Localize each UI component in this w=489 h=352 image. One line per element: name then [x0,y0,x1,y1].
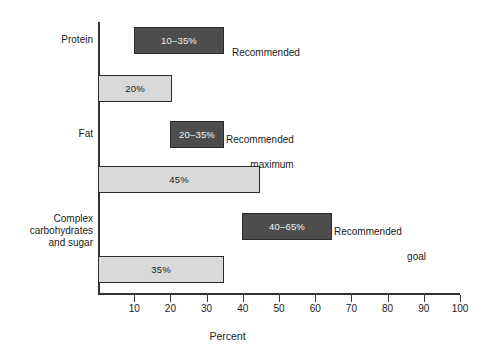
bar-fat-actual: 45% [98,166,260,193]
x-axis-tick-80 [388,295,389,302]
annotation-carbs-line1: Recommended [334,226,454,239]
x-axis-tick-label-20: 20 [155,303,185,315]
bar-carbs-range-value: 40–65% [269,221,305,232]
category-label-protein-text: Protein [61,34,93,45]
x-axis-tick-10 [134,295,135,302]
x-axis-tick-50 [279,295,280,302]
annotation-carbs-line2: goal [334,251,426,264]
x-axis-tick-60 [315,295,316,302]
bar-protein-actual: 20% [98,75,172,102]
x-axis-title-text: Percent [209,330,245,342]
x-axis-tick-label-90: 90 [409,303,439,315]
category-label-fat-text: Fat [79,128,93,139]
x-axis-tick-label-100: 100 [445,303,475,315]
category-label-carbohydrates: Complex carbohydrates and sugar [0,213,93,249]
category-label-carbs-line1: Complex [0,213,93,225]
x-axis-tick-label-70: 70 [336,303,366,315]
x-axis-tick-20 [170,295,171,302]
category-label-carbs-line2: carbohydrates [0,225,93,237]
x-axis-tick-label-30: 30 [192,303,222,315]
x-axis-tick-label-10: 10 [119,303,149,315]
x-axis-title: Percent [0,330,489,342]
x-axis-tick-label-80: 80 [373,303,403,315]
x-axis-tick-70 [351,295,352,302]
category-label-protein: Protein [0,34,93,46]
annotation-protein-recommended: Recommended [232,34,352,59]
bar-protein-actual-value: 20% [125,83,145,94]
bar-fat-actual-value: 45% [169,174,189,185]
category-label-carbs-line3: and sugar [0,237,93,249]
bar-carbohydrates-actual: 35% [98,256,224,283]
x-axis-tick-30 [207,295,208,302]
annotation-carbohydrates-recommended-goal: Recommended goal [334,213,454,276]
x-axis-tick-40 [243,295,244,302]
x-axis-tick-100 [460,295,461,302]
y-axis-line [98,22,100,294]
bar-carbs-actual-value: 35% [151,264,171,275]
bar-protein-range-value: 10–35% [161,35,197,46]
bar-protein-recommended-range: 10–35% [134,27,224,54]
x-axis-tick-label-40: 40 [228,303,258,315]
x-axis-tick-90 [424,295,425,302]
bar-chart: 102030405060708090100 Percent Protein Fa… [0,0,489,352]
bar-carbohydrates-recommended-range: 40–65% [242,213,332,240]
annotation-protein-text: Recommended [232,47,300,58]
x-axis-tick-label-50: 50 [264,303,294,315]
annotation-fat-line1: Recommended [226,134,356,147]
x-axis-tick-label-60: 60 [300,303,330,315]
bar-fat-range-value: 20–35% [179,129,215,140]
category-label-fat: Fat [0,128,93,140]
bar-fat-recommended-range: 20–35% [170,121,224,148]
